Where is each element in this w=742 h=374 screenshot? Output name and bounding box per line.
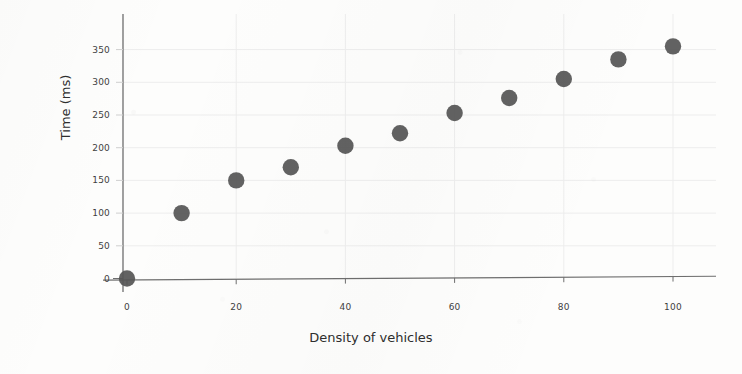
data-point-group <box>119 38 681 287</box>
y-axis-tick-label: 100 <box>62 208 110 218</box>
x-axis-tick-label: 100 <box>664 302 682 312</box>
x-axis-title: Density of vehicles <box>0 330 742 345</box>
x-axis-tick-label: 0 <box>124 302 130 312</box>
x-axis-tick-label: 40 <box>339 302 351 312</box>
x-axis-tick-label: 20 <box>230 302 242 312</box>
data-point <box>283 159 299 175</box>
plot-canvas <box>0 0 742 374</box>
data-point <box>610 51 626 67</box>
data-point <box>501 90 517 106</box>
x-axis-tick-label: 60 <box>449 302 461 312</box>
y-axis-tick-label: 0 <box>62 274 110 284</box>
y-axis-tick-label: 50 <box>62 241 110 251</box>
data-point <box>556 71 572 87</box>
data-point <box>392 125 408 141</box>
data-point <box>119 270 135 286</box>
x-axis-line <box>103 276 716 280</box>
data-point <box>337 138 353 154</box>
data-point <box>173 205 189 221</box>
y-axis-title: Time (ms) <box>58 53 73 163</box>
vertical-gridlines <box>236 14 673 279</box>
data-point <box>446 105 462 121</box>
data-point <box>228 172 244 188</box>
axis-tick-marks <box>113 50 673 285</box>
y-axis-tick-label: 150 <box>62 175 110 185</box>
horizontal-gridlines <box>123 50 716 246</box>
x-axis-tick-label: 80 <box>558 302 570 312</box>
data-point <box>665 38 681 54</box>
scatter-plot-screenshot: 050100150200250300350 020406080100 Densi… <box>0 0 742 374</box>
